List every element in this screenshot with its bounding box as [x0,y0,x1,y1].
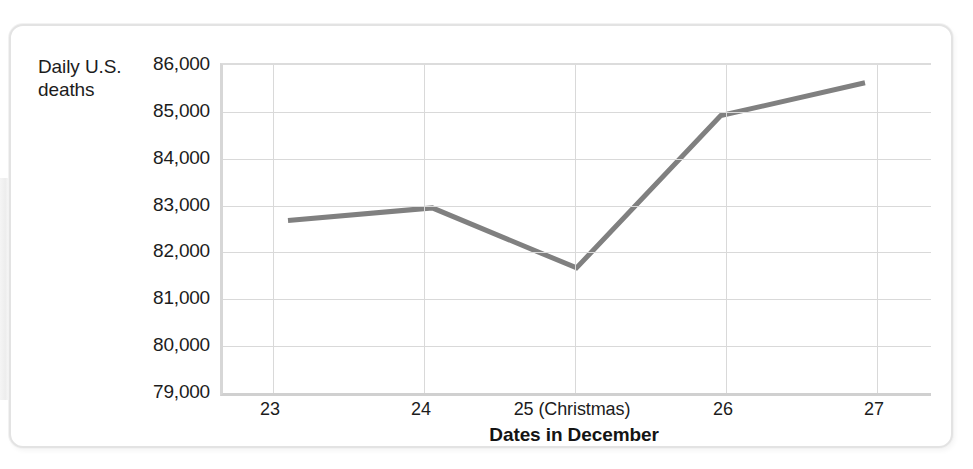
plot-area [220,63,931,396]
vertical-gridline [726,65,727,393]
horizontal-gridline [223,112,931,113]
x-axis-tick-label: 27 [864,398,884,420]
x-axis-title: Dates in December [220,424,928,446]
horizontal-gridline [223,159,931,160]
vertical-gridline [273,65,274,393]
y-axis-tick-label: 82,000 [120,241,210,260]
y-axis-tick-label: 81,000 [120,288,210,307]
y-axis-tick-labels: 86,00085,00084,00083,00082,00081,00080,0… [120,63,210,391]
y-axis-tick-label: 86,000 [120,54,210,73]
vertical-gridline [575,65,576,393]
x-axis-tick-label: 25 (Christmas) [514,398,631,420]
y-axis-tick-label: 84,000 [120,147,210,166]
horizontal-gridline [223,206,931,207]
series-line-layer [223,65,931,393]
y-axis-tick-label: 80,000 [120,335,210,354]
y-axis-tick-label: 85,000 [120,100,210,119]
x-axis-tick-label: 23 [260,398,280,420]
vertical-gridline [424,65,425,393]
y-axis-tick-label: 79,000 [120,382,210,401]
x-axis-tick-label: 26 [713,398,733,420]
vertical-gridline [877,65,878,393]
y-axis-title-line1: Daily U.S. [38,56,121,77]
line-chart: Daily U.S. deaths 86,00085,00084,00083,0… [0,0,973,469]
horizontal-gridline [223,252,931,253]
horizontal-gridline [223,299,931,300]
x-axis-tick-labels: 232425 (Christmas)2627 [220,398,928,424]
x-axis-tick-label: 24 [411,398,431,420]
series-line-daily-us-deaths [288,83,865,268]
horizontal-gridline [223,346,931,347]
y-axis-tick-label: 83,000 [120,194,210,213]
